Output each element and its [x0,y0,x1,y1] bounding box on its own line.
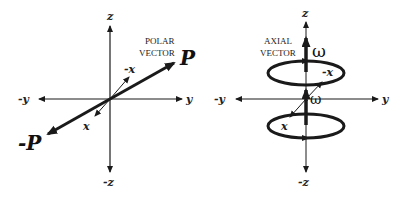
x-label: x [82,120,90,133]
p-vector [110,63,174,99]
z-label: z [106,10,114,23]
neg-p-vector [48,99,110,134]
x-label: x [280,120,288,133]
axial-vector-panel: z -z y -y -x x AXIAL VECTOR ω ω [214,7,390,189]
polar-caption-line1: POLAR [145,36,175,46]
axial-caption-line2: VECTOR [260,48,296,58]
omega-reflected-label: ω [310,91,321,107]
neg-x-label: -x [124,63,136,76]
polar-caption-line2: VECTOR [139,48,175,58]
omega-label: ω [312,41,326,61]
neg-y-label: -y [214,93,227,106]
neg-z-label: -z [298,176,310,189]
neg-y-label: -y [18,93,31,106]
y-label: y [185,93,194,106]
p-label: P [179,46,196,70]
neg-z-label: -z [103,176,115,189]
z-label: z [301,7,309,20]
neg-x-label: -x [322,66,334,79]
neg-p-label: -P [18,131,42,155]
polar-axial-vector-diagram: z -z y -y -x x POLAR VECTOR P -P z -z [0,0,410,197]
axial-caption-line1: AXIAL [264,36,292,46]
polar-vector-panel: z -z y -y -x x POLAR VECTOR P -P [18,10,196,189]
y-label: y [381,93,390,106]
